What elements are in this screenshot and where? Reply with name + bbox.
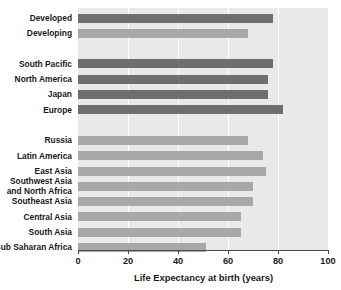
category-label-japan: Japan bbox=[48, 90, 72, 99]
x-axis-title: Life Expectancy at birth (years) bbox=[78, 272, 329, 283]
category-label-developing: Developing bbox=[27, 29, 72, 38]
category-label-southwest-asia-and-north-africa: Southwest Asiaand North Africa bbox=[0, 177, 72, 196]
tick-label-40: 40 bbox=[163, 256, 193, 266]
gridline-100 bbox=[328, 8, 329, 250]
tick-label-80: 80 bbox=[263, 256, 293, 266]
category-label-east-asia: East Asia bbox=[35, 167, 72, 176]
bar-japan bbox=[78, 90, 268, 99]
life-expectancy-bar-chart: DevelopedDevelopingSouth PacificNorth Am… bbox=[0, 0, 341, 290]
bar-russia bbox=[78, 136, 248, 145]
bar-europe bbox=[78, 105, 283, 114]
category-label-southeast-asia: Southeast Asia bbox=[12, 197, 72, 206]
bar-latin-america bbox=[78, 151, 263, 160]
plot-area bbox=[78, 8, 328, 250]
tick-mark-80 bbox=[278, 250, 279, 254]
gridline-80 bbox=[278, 8, 279, 250]
bar-developed bbox=[78, 14, 273, 23]
tick-label-0: 0 bbox=[63, 256, 93, 266]
category-label-europe: Europe bbox=[43, 106, 72, 115]
bar-south-asia bbox=[78, 228, 241, 237]
category-label-south-pacific: South Pacific bbox=[19, 60, 72, 69]
tick-mark-100 bbox=[328, 250, 329, 254]
x-axis-line bbox=[78, 250, 329, 251]
bar-southeast-asia bbox=[78, 197, 253, 206]
tick-label-100: 100 bbox=[313, 256, 341, 266]
category-label-central-asia: Central Asia bbox=[23, 213, 72, 222]
bar-developing bbox=[78, 29, 248, 38]
category-label-latin-america: Latin America bbox=[17, 152, 72, 161]
tick-mark-20 bbox=[128, 250, 129, 254]
category-label-column: DevelopedDevelopingSouth PacificNorth Am… bbox=[0, 0, 76, 250]
bar-south-pacific bbox=[78, 59, 273, 68]
category-label-south-asia: South Asia bbox=[29, 228, 72, 237]
category-label-sub-saharan-africa: Sub Saharan Africa bbox=[0, 243, 72, 252]
category-label-russia: Russia bbox=[45, 136, 72, 145]
category-label-developed: Developed bbox=[30, 14, 72, 23]
tick-label-20: 20 bbox=[113, 256, 143, 266]
bar-east-asia bbox=[78, 167, 266, 176]
bar-southwest-asia-and-north-africa bbox=[78, 182, 253, 191]
tick-mark-0 bbox=[78, 250, 79, 254]
category-label-north-america: North America bbox=[15, 75, 72, 84]
bar-central-asia bbox=[78, 212, 241, 221]
tick-mark-40 bbox=[178, 250, 179, 254]
tick-label-60: 60 bbox=[213, 256, 243, 266]
bar-north-america bbox=[78, 75, 268, 84]
tick-mark-60 bbox=[228, 250, 229, 254]
